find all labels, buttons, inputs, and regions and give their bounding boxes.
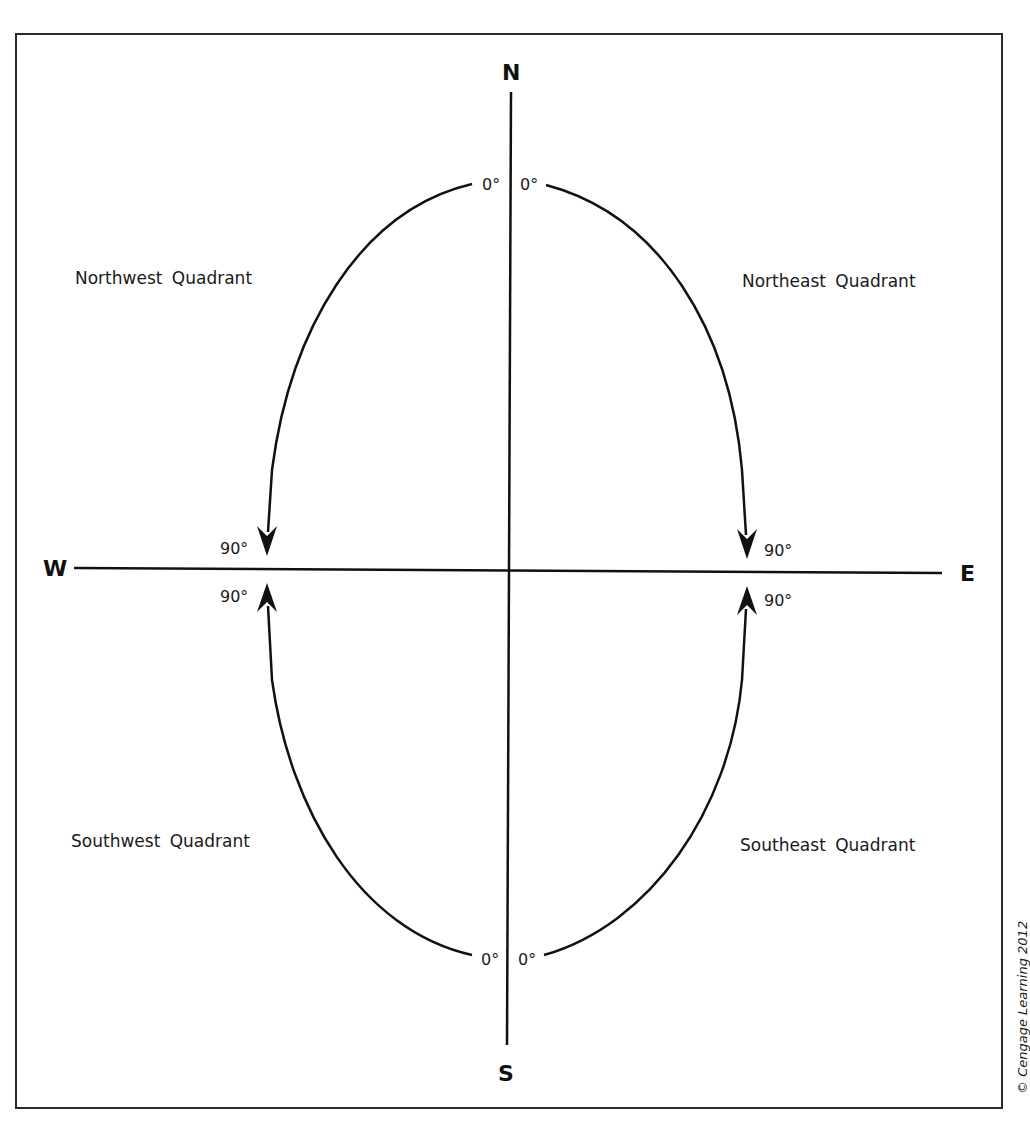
quadrant-label-southeast: Southeast Quadrant: [740, 837, 915, 854]
degree-label-north-right: 0°: [520, 177, 538, 193]
east-label: E: [960, 563, 975, 585]
degree-label-west-upper: 90°: [220, 541, 248, 557]
degree-label-south-right: 0°: [518, 952, 536, 968]
southeast-arc-arrow: [544, 609, 746, 955]
north-label: N: [502, 62, 520, 84]
degree-label-west-lower: 90°: [220, 589, 248, 605]
southwest-arc-arrow: [268, 606, 472, 955]
northeast-arc-arrow: [546, 185, 746, 535]
degree-label-east-upper: 90°: [764, 543, 792, 559]
degree-label-north-left: 0°: [482, 177, 500, 193]
quadrant-label-northeast: Northeast Quadrant: [742, 273, 916, 290]
degree-label-south-left: 0°: [481, 952, 499, 968]
northwest-arc-arrow: [268, 184, 472, 532]
degree-label-east-lower: 90°: [764, 593, 792, 609]
copyright-notice: © Cengage Learning 2012: [1016, 921, 1029, 1094]
west-label: W: [43, 558, 67, 580]
quadrant-label-northwest: Northwest Quadrant: [75, 270, 252, 287]
quadrant-label-southwest: Southwest Quadrant: [71, 833, 250, 850]
north-south-axis: [507, 92, 511, 1045]
south-label: S: [498, 1063, 514, 1085]
